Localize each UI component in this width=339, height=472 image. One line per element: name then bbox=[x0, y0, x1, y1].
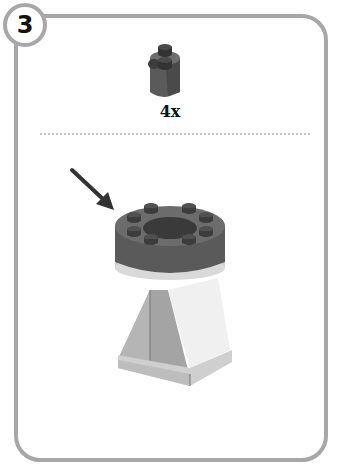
part-callout-illustration bbox=[0, 0, 339, 472]
arrow-pointer-icon bbox=[72, 170, 114, 210]
dotted-divider bbox=[40, 133, 310, 135]
stud bbox=[182, 234, 196, 245]
assembly-model-illustration bbox=[115, 203, 232, 386]
round-brick-part-icon bbox=[148, 44, 180, 97]
stud bbox=[144, 203, 158, 214]
stud bbox=[127, 226, 141, 237]
stud bbox=[199, 226, 213, 237]
stud bbox=[182, 203, 196, 214]
stud bbox=[199, 212, 213, 223]
stud bbox=[144, 234, 158, 245]
part-quantity-label: 4x bbox=[150, 102, 190, 121]
stud bbox=[127, 212, 141, 223]
